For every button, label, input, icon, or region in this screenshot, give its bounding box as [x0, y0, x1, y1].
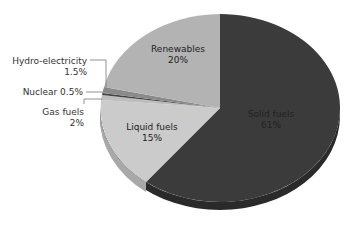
- label-hydro-name: Hydro-electricity: [12, 56, 87, 66]
- leader-hydro: [90, 60, 106, 90]
- label-gas-name: Gas fuels: [42, 107, 84, 117]
- label-solid-name: Solid fuels: [248, 109, 295, 119]
- pie-chart: Renewables 20% Solid fuels 61% Liquid fu…: [0, 0, 353, 231]
- label-hydro-pct: 1.5%: [64, 67, 87, 77]
- label-liquid-pct: 15%: [142, 133, 162, 143]
- label-renewables-pct: 20%: [168, 55, 188, 65]
- label-gas-pct: 2%: [70, 118, 85, 128]
- label-solid-pct: 61%: [261, 120, 281, 130]
- label-liquid-name: Liquid fuels: [126, 122, 178, 132]
- label-renewables-name: Renewables: [151, 44, 205, 54]
- label-nuclear: Nuclear 0.5%: [23, 87, 84, 97]
- leader-gas: [84, 99, 102, 104]
